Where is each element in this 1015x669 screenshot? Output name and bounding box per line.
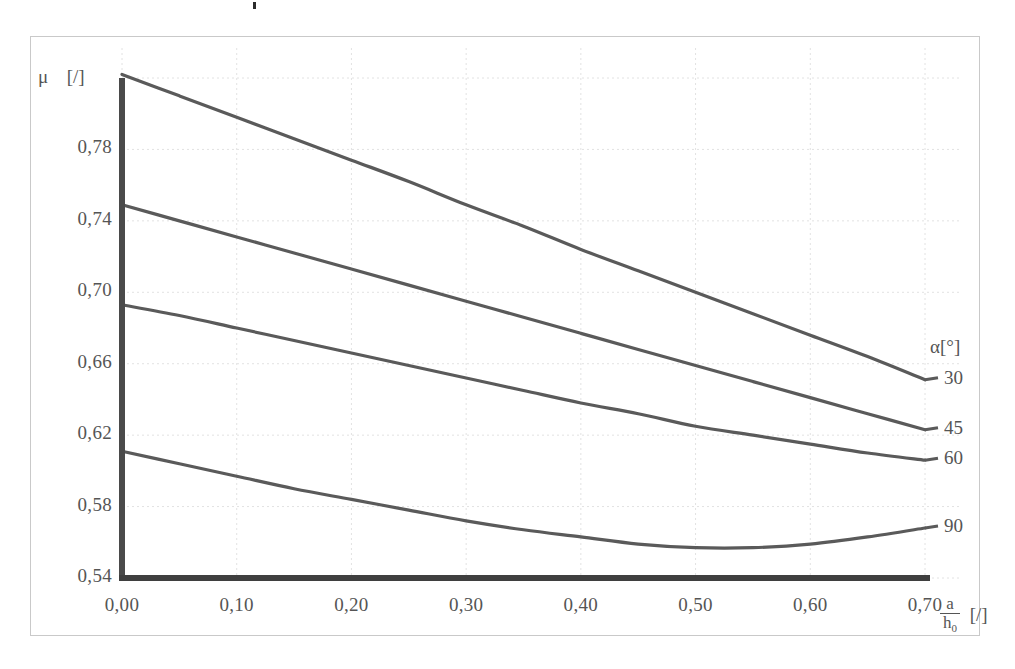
x-tick-label: 0,00: [87, 594, 157, 616]
legend-connector-ticks: [925, 378, 938, 528]
y-tick-label: 0,74: [42, 208, 112, 230]
x-tick-label: 0,10: [202, 594, 272, 616]
legend-title: α[°]: [930, 336, 960, 358]
x-axis-denominator: h0: [940, 614, 960, 635]
curve-45: [122, 205, 925, 430]
y-axis-title: μ [/]: [38, 66, 85, 88]
legend-tick-60: [925, 458, 938, 460]
y-axis-symbol: μ: [38, 66, 48, 87]
x-tick-label: 0,30: [431, 594, 501, 616]
y-tick-label: 0,78: [42, 136, 112, 158]
curve-group: [122, 74, 925, 548]
x-tick-label: 0,20: [316, 594, 386, 616]
x-tick-label: 0,60: [775, 594, 845, 616]
legend-tick-30: [925, 378, 938, 380]
y-axis-unit: [/]: [67, 66, 85, 87]
legend-item-45: 45: [944, 417, 963, 439]
x-axis-title: a h0 [/]: [940, 595, 988, 635]
x-axis-denominator-subscript: 0: [952, 622, 958, 634]
y-tick-label: 0,66: [42, 351, 112, 373]
curve-30: [122, 74, 925, 379]
x-tick-label: 0,40: [546, 594, 616, 616]
curve-60: [122, 305, 925, 460]
legend-item-60: 60: [944, 447, 963, 469]
x-axis-fraction: a h0: [940, 595, 960, 635]
chart-figure: μ [/] 0,780,740,700,660,620,580,54 0,000…: [0, 0, 1015, 669]
legend-item-30: 30: [944, 367, 963, 389]
legend-item-90: 90: [944, 515, 963, 537]
y-tick-label: 0,54: [42, 565, 112, 587]
x-tick-label: 0,50: [661, 594, 731, 616]
gridlines: [122, 48, 960, 578]
x-axis-numerator: a: [940, 595, 960, 614]
plot-area: [0, 0, 1015, 669]
y-tick-label: 0,62: [42, 422, 112, 444]
y-tick-label: 0,58: [42, 494, 112, 516]
legend-tick-45: [925, 428, 938, 430]
x-axis-unit: [/]: [970, 604, 988, 626]
legend-tick-90: [925, 526, 938, 528]
curve-90: [122, 451, 925, 548]
y-tick-label: 0,70: [42, 279, 112, 301]
